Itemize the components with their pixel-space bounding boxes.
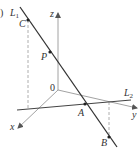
point-b-label: B bbox=[101, 137, 107, 148]
point-p bbox=[48, 50, 51, 53]
point-c bbox=[26, 18, 29, 21]
l2-label: L2 bbox=[123, 87, 134, 100]
line-l1 bbox=[20, 7, 117, 147]
diagram-canvas: ) z x y 0 L2 L1 C P A B bbox=[0, 0, 139, 154]
point-p-label: P bbox=[40, 51, 47, 62]
point-a bbox=[83, 102, 86, 105]
z-axis-label: z bbox=[49, 8, 54, 19]
line-l2 bbox=[17, 100, 131, 110]
y-axis-label: y bbox=[131, 109, 137, 120]
point-c-label: C bbox=[19, 18, 26, 29]
origin-label: 0 bbox=[50, 82, 55, 93]
point-b bbox=[107, 135, 110, 138]
l1-label: L1 bbox=[9, 7, 20, 20]
point-a-label: A bbox=[77, 107, 85, 118]
x-axis-label: x bbox=[9, 121, 15, 132]
panel-marker: ) bbox=[0, 7, 3, 19]
